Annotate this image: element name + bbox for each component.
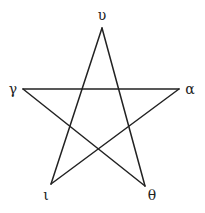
- vertex-label-iota: ι: [43, 187, 49, 203]
- edge-upsilon-iota: [51, 28, 102, 184]
- vertex-label-alpha: α: [185, 81, 195, 97]
- vertex-label-theta: θ: [148, 187, 156, 203]
- edge-upsilon-theta: [102, 28, 145, 186]
- vertex-label-upsilon: υ: [98, 7, 107, 23]
- pentagram-diagram: υ α θ ι γ: [0, 0, 205, 213]
- pentagram-edges: [23, 28, 179, 186]
- vertex-labels: υ α θ ι γ: [9, 7, 195, 203]
- edge-alpha-iota: [51, 89, 179, 184]
- edge-gamma-theta: [23, 89, 145, 186]
- vertex-label-gamma: γ: [9, 81, 17, 97]
